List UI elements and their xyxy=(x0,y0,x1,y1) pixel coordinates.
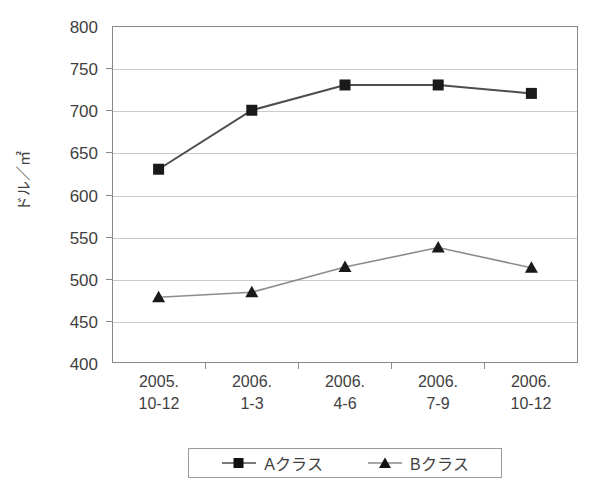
gridline-700 xyxy=(113,111,577,112)
y-tick-mark-500 xyxy=(106,279,112,280)
x-tick-mark-4 xyxy=(484,363,485,369)
x-tick-label-2: 2006. 4-6 xyxy=(297,371,393,414)
gridline-650 xyxy=(113,153,577,154)
y-axis-title: ドル／㎡ xyxy=(12,126,33,236)
x-tick-label-4-year: 2006. xyxy=(483,371,579,393)
y-tick-label-4: 600 xyxy=(54,188,98,205)
square-marker-icon xyxy=(221,456,257,470)
gridline-450 xyxy=(113,322,577,323)
x-tick-mark-3 xyxy=(391,363,392,369)
y-tick-mark-600 xyxy=(106,195,112,196)
y-tick-mark-750 xyxy=(106,68,112,69)
legend-entry-a[interactable]: Aクラス xyxy=(221,451,323,475)
x-tick-label-3-year: 2006. xyxy=(390,371,486,393)
y-tick-label-7: 450 xyxy=(54,314,98,331)
x-tick-label-3-months: 7-9 xyxy=(390,393,486,415)
legend-label-a: Aクラス xyxy=(264,451,323,475)
gridline-500 xyxy=(113,280,577,281)
legend: Aクラス Bクラス xyxy=(188,448,502,478)
line-chart: ドル／㎡ 800 750 700 650 600 550 500 450 400… xyxy=(0,0,610,494)
legend-label-b: Bクラス xyxy=(410,451,469,475)
y-tick-mark-550 xyxy=(106,237,112,238)
y-tick-mark-450 xyxy=(106,321,112,322)
y-tick-label-5: 550 xyxy=(54,230,98,247)
y-tick-label-1: 750 xyxy=(54,61,98,78)
gridline-550 xyxy=(113,238,577,239)
y-tick-mark-700 xyxy=(106,110,112,111)
y-tick-label-3: 650 xyxy=(54,145,98,162)
y-tick-label-6: 500 xyxy=(54,272,98,289)
x-tick-label-4: 2006. 10-12 xyxy=(483,371,579,414)
y-tick-mark-650 xyxy=(106,152,112,153)
x-tick-label-2-months: 4-6 xyxy=(297,393,393,415)
y-tick-label-0: 800 xyxy=(54,19,98,36)
x-tick-label-0: 2005. 10-12 xyxy=(111,371,207,414)
x-tick-label-3: 2006. 7-9 xyxy=(390,371,486,414)
x-tick-label-1-months: 1-3 xyxy=(204,393,300,415)
gridline-600 xyxy=(113,196,577,197)
x-tick-label-2-year: 2006. xyxy=(297,371,393,393)
y-tick-label-8: 400 xyxy=(54,356,98,373)
x-tick-label-4-months: 10-12 xyxy=(483,393,579,415)
x-tick-label-0-year: 2005. xyxy=(111,371,207,393)
triangle-marker-icon xyxy=(367,456,403,470)
y-tick-label-2: 700 xyxy=(54,103,98,120)
x-tick-mark-1 xyxy=(205,363,206,369)
plot-area xyxy=(112,26,578,363)
legend-entry-b[interactable]: Bクラス xyxy=(367,451,469,475)
x-tick-mark-2 xyxy=(298,363,299,369)
gridline-750 xyxy=(113,69,577,70)
x-tick-label-0-months: 10-12 xyxy=(111,393,207,415)
x-tick-label-1: 2006. 1-3 xyxy=(204,371,300,414)
x-tick-label-1-year: 2006. xyxy=(204,371,300,393)
